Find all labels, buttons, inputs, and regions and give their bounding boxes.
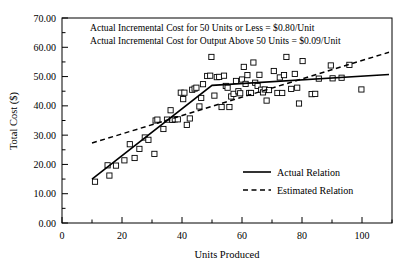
data-point	[251, 60, 256, 65]
y-tick-label: 30.00	[34, 130, 57, 141]
data-point	[209, 54, 214, 59]
data-point	[146, 137, 151, 142]
data-point	[187, 116, 192, 121]
data-point	[292, 71, 297, 76]
data-point	[161, 126, 166, 131]
data-point	[257, 72, 262, 77]
data-point	[168, 108, 173, 113]
x-tick-label: 60	[237, 230, 247, 241]
data-point	[295, 85, 300, 90]
chart-annotations: Actual Incremental Cost for 50 Units or …	[90, 22, 341, 46]
data-point	[137, 146, 142, 151]
data-point	[271, 68, 276, 73]
data-point	[227, 104, 232, 109]
x-tick-label: 40	[177, 230, 187, 241]
chart-container: 020406080100 0.0010.0020.0030.0040.0050.…	[0, 0, 412, 267]
y-tick-label: 20.00	[34, 159, 57, 170]
y-tick-label: 50.00	[34, 71, 57, 82]
data-point	[152, 151, 157, 156]
data-point	[132, 155, 137, 160]
data-point	[212, 93, 217, 98]
data-point	[296, 101, 301, 106]
data-point	[181, 97, 186, 102]
data-point	[225, 85, 230, 90]
annotation-line: Actual Incremental Cost for 50 Units or …	[90, 22, 315, 33]
data-point	[281, 73, 286, 78]
data-point	[127, 142, 132, 147]
data-point	[289, 86, 294, 91]
legend-label: Estimated Relation	[277, 185, 353, 196]
data-point	[280, 90, 285, 95]
y-axis-title: Total Cost ($)	[8, 91, 20, 150]
data-point	[264, 98, 269, 103]
data-point	[197, 104, 202, 109]
x-tick-label: 100	[355, 230, 370, 241]
x-tick-label: 80	[297, 230, 307, 241]
data-point	[155, 117, 160, 122]
data-point	[184, 122, 189, 127]
data-point	[328, 63, 333, 68]
data-point	[113, 163, 118, 168]
data-point	[107, 173, 112, 178]
x-tick-label: 0	[60, 230, 65, 241]
data-point	[208, 73, 213, 78]
data-point	[245, 73, 250, 78]
data-point	[219, 104, 224, 109]
data-point	[238, 91, 243, 96]
data-point	[92, 179, 97, 184]
scatter-chart: 020406080100 0.0010.0020.0030.0040.0050.…	[0, 0, 412, 267]
data-point	[200, 82, 205, 87]
data-point	[182, 90, 187, 95]
y-tick-label: 70.00	[34, 13, 57, 24]
data-point	[221, 73, 226, 78]
y-tick-label: 10.00	[34, 188, 57, 199]
annotation-line: Actual Incremental Cost for Output Above…	[90, 35, 341, 46]
y-tick-label: 40.00	[34, 100, 57, 111]
data-point	[233, 78, 238, 83]
data-point	[122, 158, 127, 163]
y-tick-label: 60.00	[34, 42, 57, 53]
legend-label: Actual Relation	[277, 167, 340, 178]
x-tick-label: 20	[117, 230, 127, 241]
data-point	[300, 58, 305, 63]
x-axis-title: Units Produced	[194, 249, 260, 260]
data-point	[241, 64, 246, 69]
data-point	[284, 54, 289, 59]
data-point	[194, 85, 199, 90]
data-point	[359, 87, 364, 92]
data-point	[313, 91, 318, 96]
y-tick-label: 0.00	[39, 218, 57, 229]
